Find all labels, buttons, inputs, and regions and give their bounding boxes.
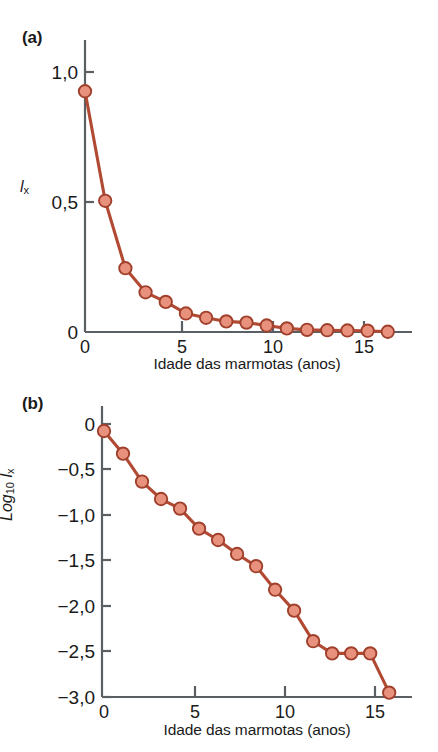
panel-b-data-point-9 — [269, 584, 281, 596]
panel-b-ytick-label-30: −3,0 — [57, 687, 95, 708]
panel-b-xtick-label-15: 15 — [365, 702, 385, 722]
panel-a-data-point-8 — [240, 316, 252, 328]
panel-b-data-point-1 — [117, 447, 129, 459]
panel-b-x-axis-title: Idade das marmotas (anos) — [0, 721, 438, 739]
panel-a-data-point-3 — [139, 286, 151, 298]
panel-b-data-point-15 — [383, 686, 395, 698]
panel-b-data-point-12 — [326, 647, 338, 659]
panel-b-data-point-5 — [193, 522, 205, 534]
panel-b-xtick-label-5: 5 — [190, 702, 200, 722]
panel-a-data-point-4 — [160, 296, 172, 308]
panel-a-data-point-2 — [119, 262, 131, 274]
panel-b-xtick-label-0: 0 — [99, 702, 109, 722]
panel-b-data-point-10 — [288, 604, 300, 616]
panel-b-ytick-label-25: −2,5 — [57, 641, 95, 662]
panel-b-data-point-4 — [174, 502, 186, 514]
panel-a-xtick-label-0: 0 — [80, 337, 90, 357]
panel-a-data-point-11 — [301, 324, 313, 336]
chart-panel-b: (b) Log10 lx 0 −0,5 −1,0 −1,5 −2,0 −2,5 … — [0, 376, 438, 752]
panel-a-data-markers — [79, 85, 394, 338]
panel-a-plot: 1,0 0,5 0 0 5 10 15 — [0, 0, 438, 376]
chart-panel-a: (a) lx 1,0 0,5 0 0 5 10 15 Idade das mar… — [0, 0, 438, 376]
panel-b-data-point-3 — [155, 493, 167, 505]
panel-a-data-point-9 — [260, 319, 272, 331]
panel-b-data-point-14 — [364, 647, 376, 659]
panel-a-data-point-5 — [180, 307, 192, 319]
panel-a-data-point-13 — [341, 324, 353, 336]
panel-a-data-point-6 — [200, 312, 212, 324]
panel-a-data-line — [85, 91, 388, 332]
panel-a-xtick-label-5: 5 — [177, 337, 187, 357]
panel-a-data-point-15 — [382, 326, 394, 338]
panel-b-data-point-6 — [212, 534, 224, 546]
panel-b-ytick-label-0: 0 — [84, 414, 95, 435]
panel-b-xtick-label-10: 10 — [275, 702, 295, 722]
panel-b-data-point-11 — [307, 635, 319, 647]
panel-b-data-point-0 — [98, 425, 110, 437]
panel-b-ytick-label-15: −1,5 — [57, 550, 95, 571]
panel-b-ytick-label-20: −2,0 — [57, 596, 95, 617]
panel-a-ytick-label-0: 0 — [67, 322, 78, 343]
panel-a-xtick-label-15: 15 — [354, 337, 374, 357]
panel-b-ytick-label-10: −1,0 — [57, 505, 95, 526]
panel-b-data-point-8 — [250, 560, 262, 572]
panel-a-data-point-12 — [321, 324, 333, 336]
panel-a-data-point-7 — [220, 315, 232, 327]
panel-b-data-point-13 — [345, 647, 357, 659]
panel-a-ytick-label-05: 0,5 — [52, 192, 78, 213]
panel-a-xtick-label-10: 10 — [263, 337, 283, 357]
panel-a-data-point-1 — [99, 195, 111, 207]
panel-b-data-point-2 — [136, 475, 148, 487]
panel-a-x-axis-title: Idade das marmotas (anos) — [0, 355, 438, 373]
panel-a-data-point-0 — [79, 85, 91, 97]
panel-b-plot: 0 −0,5 −1,0 −1,5 −2,0 −2,5 −3,0 0 5 10 1… — [0, 376, 438, 752]
panel-a-data-point-10 — [281, 322, 293, 334]
panel-a-ytick-label-1: 1,0 — [52, 62, 78, 83]
panel-b-data-point-7 — [231, 548, 243, 560]
panel-b-ytick-label-05: −0,5 — [57, 459, 95, 480]
panel-a-data-point-14 — [361, 324, 373, 336]
